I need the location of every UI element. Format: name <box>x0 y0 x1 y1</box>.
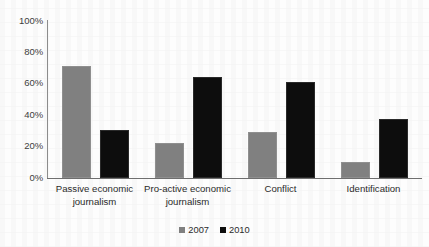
bar-2010-pro-active-economic-journalism <box>193 77 222 178</box>
y-tick-label-80: 80% <box>3 47 43 57</box>
category-label-line-1: Identification <box>323 182 424 195</box>
category-label-line-1: Pro-active economic <box>137 182 238 195</box>
y-axis-tick-labels: 100% 80% 60% 40% 20% 0% <box>0 0 43 247</box>
y-tick-label-100: 100% <box>3 16 43 26</box>
x-axis-line <box>47 178 422 179</box>
bar-2007-passive-economic-journalism <box>62 66 91 178</box>
chart-legend: 2007 2010 <box>0 225 429 235</box>
bar-2007-conflict <box>248 132 277 178</box>
legend-entry-2010: 2010 <box>220 225 250 235</box>
x-axis-category-labels: Passive economic journalism Pro-active e… <box>48 182 421 218</box>
category-label-line-1: Passive economic <box>44 182 145 195</box>
bar-group-identification <box>327 21 420 178</box>
y-tick-label-20: 20% <box>3 141 43 151</box>
legend-label-2007: 2007 <box>188 225 209 235</box>
bar-group-passive-economic-journalism <box>48 21 141 178</box>
category-label-line-2: journalism <box>137 195 238 208</box>
y-tick-label-40: 40% <box>3 110 43 120</box>
bar-2007-pro-active-economic-journalism <box>155 143 184 178</box>
legend-label-2010: 2010 <box>229 225 250 235</box>
legend-entry-2007: 2007 <box>179 225 209 235</box>
bar-group-pro-active-economic-journalism <box>141 21 234 178</box>
category-label-identification: Identification <box>323 182 424 195</box>
bar-chart-figure: 100% 80% 60% 40% 20% 0% Passive economic <box>0 0 429 247</box>
y-tick-label-0: 0% <box>3 173 43 183</box>
category-label-conflict: Conflict <box>230 182 331 195</box>
bar-2010-identification <box>379 119 408 178</box>
category-label-line-2: journalism <box>44 195 145 208</box>
legend-swatch-icon-2010 <box>220 227 226 233</box>
category-label-line-1: Conflict <box>230 182 331 195</box>
bar-2010-passive-economic-journalism <box>100 130 129 178</box>
legend-swatch-icon-2007 <box>179 227 185 233</box>
category-label-passive-economic-journalism: Passive economic journalism <box>44 182 145 208</box>
plot-area <box>48 21 421 178</box>
bar-group-conflict <box>234 21 327 178</box>
category-label-pro-active-economic-journalism: Pro-active economic journalism <box>137 182 238 208</box>
bar-2010-conflict <box>286 82 315 178</box>
bar-2007-identification <box>341 162 370 178</box>
y-tick-label-60: 60% <box>3 78 43 88</box>
